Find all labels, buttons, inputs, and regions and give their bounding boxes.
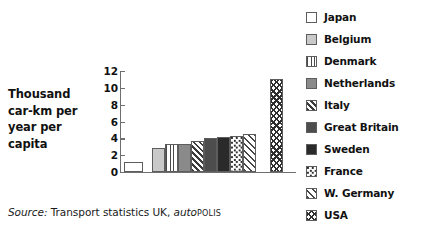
y-tick-label: 0 bbox=[111, 167, 118, 177]
legend-item-italy: Italy bbox=[306, 94, 421, 116]
y-tick-mark bbox=[121, 122, 125, 123]
legend-item-usa: USA bbox=[306, 204, 421, 226]
legend-label: Netherlands bbox=[324, 77, 395, 89]
y-axis-tick-labels: 024681012 bbox=[96, 66, 118, 172]
legend-swatch-icon bbox=[306, 78, 317, 89]
bar-w-germany bbox=[243, 134, 256, 172]
chart-figure: Thousand car-km per year per capita 0246… bbox=[0, 0, 421, 234]
bar-italy bbox=[191, 141, 204, 172]
legend-swatch-icon bbox=[306, 144, 317, 155]
legend-item-netherlands: Netherlands bbox=[306, 72, 421, 94]
autopolis-polis: POLIS bbox=[197, 209, 221, 218]
y-tick-mark bbox=[121, 155, 125, 156]
source-prefix: Source: bbox=[8, 206, 47, 218]
source-caption: Source: Transport statistics UK, autoPOL… bbox=[8, 206, 221, 218]
y-tick-label: 4 bbox=[111, 133, 118, 143]
y-tick-mark bbox=[121, 88, 125, 89]
legend-swatch-icon bbox=[306, 210, 317, 221]
legend-label: Great Britain bbox=[324, 121, 399, 133]
legend-swatch-icon bbox=[306, 188, 317, 199]
y-tick-mark bbox=[121, 105, 125, 106]
legend-swatch-icon bbox=[306, 122, 317, 133]
legend: JapanBelgiumDenmarkNetherlandsItalyGreat… bbox=[306, 6, 421, 226]
legend-label: Italy bbox=[324, 99, 350, 111]
y-tick-mark bbox=[121, 138, 125, 139]
legend-item-japan: Japan bbox=[306, 6, 421, 28]
legend-label: Sweden bbox=[324, 143, 370, 155]
bar-japan bbox=[124, 162, 143, 172]
bar-series bbox=[122, 66, 296, 172]
legend-label: Japan bbox=[324, 11, 356, 23]
legend-item-denmark: Denmark bbox=[306, 50, 421, 72]
legend-item-sweden: Sweden bbox=[306, 138, 421, 160]
legend-swatch-icon bbox=[306, 100, 317, 111]
bar-netherlands bbox=[178, 144, 191, 172]
bar-belgium bbox=[152, 148, 165, 172]
legend-swatch-icon bbox=[306, 34, 317, 45]
y-tick-mark bbox=[121, 172, 125, 173]
y-axis-title: Thousand car-km per year per capita bbox=[8, 86, 94, 152]
autopolis-auto: auto bbox=[174, 206, 197, 218]
y-tick-label: 6 bbox=[111, 117, 118, 127]
x-axis-line bbox=[120, 172, 296, 173]
y-axis-title-line: capita bbox=[8, 136, 94, 153]
bar-usa bbox=[270, 79, 283, 172]
legend-item-belgium: Belgium bbox=[306, 28, 421, 50]
legend-swatch-icon bbox=[306, 166, 317, 177]
legend-label: Denmark bbox=[324, 55, 376, 67]
legend-swatch-icon bbox=[306, 56, 317, 67]
legend-item-great-britain: Great Britain bbox=[306, 116, 421, 138]
y-tick-label: 2 bbox=[111, 150, 118, 160]
legend-swatch-icon bbox=[306, 12, 317, 23]
y-axis-title-line: car-km per bbox=[8, 103, 94, 120]
bar-great-britain bbox=[204, 138, 217, 172]
y-tick-label: 8 bbox=[111, 100, 118, 110]
y-axis-title-line: year per bbox=[8, 119, 94, 136]
y-tick-label: 10 bbox=[103, 83, 118, 93]
legend-label: W. Germany bbox=[324, 187, 394, 199]
y-tick-mark bbox=[121, 71, 125, 72]
bar-sweden bbox=[217, 137, 230, 172]
source-text: Transport statistics UK, bbox=[47, 206, 173, 218]
bar-france bbox=[230, 136, 243, 172]
y-axis-title-line: Thousand bbox=[8, 86, 94, 103]
y-tick-label: 12 bbox=[103, 66, 118, 76]
legend-label: Belgium bbox=[324, 33, 371, 45]
legend-label: USA bbox=[324, 209, 348, 221]
plot-area: 024681012 bbox=[96, 66, 296, 178]
legend-item-france: France bbox=[306, 160, 421, 182]
bar-denmark bbox=[165, 144, 178, 172]
legend-label: France bbox=[324, 165, 363, 177]
legend-item-w-germany: W. Germany bbox=[306, 182, 421, 204]
